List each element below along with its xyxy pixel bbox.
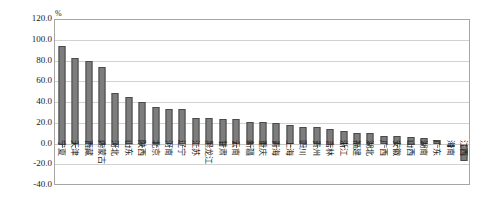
x-axis-category-slot: 湖北 bbox=[363, 140, 376, 198]
x-axis-category-slot: 吉林 bbox=[322, 140, 335, 198]
x-axis-category-label: 上海 bbox=[285, 140, 293, 156]
x-axis-category-slot: 河北 bbox=[108, 140, 121, 198]
x-axis-category-slot: 云南 bbox=[228, 140, 241, 198]
y-axis-tick-label: -40.0 bbox=[33, 180, 52, 189]
x-axis-category-label: 福建 bbox=[352, 140, 360, 156]
bar bbox=[112, 93, 119, 145]
x-axis-category-label: 山西 bbox=[406, 140, 414, 156]
x-axis-category-label: 天津 bbox=[70, 140, 78, 156]
x-axis-category-slot: 贵州 bbox=[309, 140, 322, 198]
x-axis-category-labels: 宁夏天津西藏内蒙古河北山东陕西北京河南辽宁江苏黑龙江甘肃云南新疆重庆青海上海四川… bbox=[54, 140, 470, 200]
x-axis-category-label: 河北 bbox=[110, 140, 118, 156]
x-axis-category-label: 宁夏 bbox=[57, 140, 65, 156]
bar-chart: % 120.0100.080.060.040.020.00.0-20.0-40.… bbox=[0, 0, 483, 217]
x-axis-category-label: 湖北 bbox=[365, 140, 373, 156]
y-axis-unit-label: % bbox=[55, 10, 62, 18]
y-axis-tick-label: 60.0 bbox=[36, 76, 52, 85]
x-axis-category-label: 甘肃 bbox=[218, 140, 226, 156]
x-axis-category-label: 海南 bbox=[446, 140, 454, 156]
x-axis-category-slot: 浙江 bbox=[336, 140, 349, 198]
x-axis-category-label: 重庆 bbox=[258, 140, 266, 156]
x-axis-category-slot: 海南 bbox=[443, 140, 456, 198]
bar bbox=[139, 102, 146, 145]
x-axis-category-slot: 山西 bbox=[403, 140, 416, 198]
x-axis-category-label: 内蒙古 bbox=[97, 140, 105, 164]
bar bbox=[58, 46, 65, 145]
x-axis-category-slot: 山东 bbox=[121, 140, 134, 198]
x-axis-category-label: 青海 bbox=[271, 140, 279, 156]
x-axis-category-label: 吉林 bbox=[325, 140, 333, 156]
x-axis-category-label: 贵州 bbox=[312, 140, 320, 156]
y-axis-tick-label: -20.0 bbox=[33, 159, 52, 168]
x-axis-category-slot: 福建 bbox=[349, 140, 362, 198]
x-axis-category-label: 西藏 bbox=[84, 140, 92, 156]
x-axis-category-label: 陕西 bbox=[137, 140, 145, 156]
x-axis-category-label: 广东 bbox=[432, 140, 440, 156]
x-axis-category-slot: 上海 bbox=[282, 140, 295, 198]
x-axis-category-label: 河南 bbox=[164, 140, 172, 156]
bar bbox=[72, 58, 79, 144]
x-axis-category-slot: 黑龙江 bbox=[202, 140, 215, 198]
x-axis-category-label: 江西 bbox=[459, 140, 467, 156]
x-axis-category-slot: 内蒙古 bbox=[94, 140, 107, 198]
x-axis-category-label: 广西 bbox=[379, 140, 387, 156]
x-axis-category-slot: 四川 bbox=[296, 140, 309, 198]
x-axis-category-slot: 西藏 bbox=[81, 140, 94, 198]
x-axis-category-label: 新疆 bbox=[245, 140, 253, 156]
x-axis-category-label: 辽宁 bbox=[177, 140, 185, 156]
x-axis-category-label: 浙江 bbox=[339, 140, 347, 156]
x-axis-category-slot: 北京 bbox=[148, 140, 161, 198]
x-axis-category-slot: 广西 bbox=[376, 140, 389, 198]
y-axis-tick-label: 40.0 bbox=[36, 97, 52, 106]
x-axis-category-slot: 广东 bbox=[430, 140, 443, 198]
x-axis-category-label: 四川 bbox=[298, 140, 306, 156]
y-axis-tick-label: 120.0 bbox=[32, 14, 52, 23]
x-axis-category-slot: 江苏 bbox=[188, 140, 201, 198]
y-axis-tick-label: 100.0 bbox=[32, 35, 52, 44]
x-axis-category-slot: 安徽 bbox=[389, 140, 402, 198]
x-axis-category-slot: 新疆 bbox=[242, 140, 255, 198]
x-axis-category-slot: 陕西 bbox=[135, 140, 148, 198]
x-axis-category-label: 江苏 bbox=[191, 140, 199, 156]
x-axis-category-slot: 青海 bbox=[269, 140, 282, 198]
x-axis-category-slot: 甘肃 bbox=[215, 140, 228, 198]
bar bbox=[125, 97, 132, 145]
x-axis-category-slot: 宁夏 bbox=[54, 140, 67, 198]
x-axis-category-label: 山东 bbox=[124, 140, 132, 156]
bar bbox=[85, 61, 92, 145]
x-axis-category-label: 云南 bbox=[231, 140, 239, 156]
x-axis-category-label: 北京 bbox=[151, 140, 159, 156]
bar bbox=[152, 107, 159, 144]
y-axis-tick-label: 0.0 bbox=[41, 139, 52, 148]
x-axis-category-slot: 天津 bbox=[67, 140, 80, 198]
x-axis-category-label: 湖南 bbox=[419, 140, 427, 156]
x-axis-category-label: 安徽 bbox=[392, 140, 400, 156]
x-axis-category-slot: 辽宁 bbox=[175, 140, 188, 198]
y-axis-tick-label: 80.0 bbox=[36, 56, 52, 65]
x-axis-category-slot: 江西 bbox=[457, 140, 470, 198]
bar bbox=[98, 67, 105, 145]
x-axis-category-slot: 河南 bbox=[161, 140, 174, 198]
y-axis: 120.0100.080.060.040.020.00.0-20.0-40.0 bbox=[0, 0, 52, 217]
x-axis-category-slot: 湖南 bbox=[416, 140, 429, 198]
y-axis-tick-label: 20.0 bbox=[36, 118, 52, 127]
x-axis-category-slot: 重庆 bbox=[255, 140, 268, 198]
x-axis-category-label: 黑龙江 bbox=[204, 140, 212, 164]
